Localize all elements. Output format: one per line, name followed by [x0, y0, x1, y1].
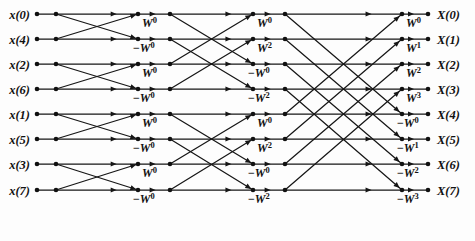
- twiddle-label-s3-r4: −W0: [397, 115, 419, 130]
- twiddle-label-s1-r7: −W0: [133, 191, 155, 206]
- twiddle-exp-s1-r3: 0: [151, 90, 155, 100]
- output-node-5: [426, 137, 431, 142]
- twiddle-exp-s2-r7: 2: [266, 191, 270, 201]
- twiddle-exp-s3-r0: 0: [417, 15, 421, 25]
- twiddle-exp-s1-r6: 0: [153, 165, 157, 175]
- stage1-out-node-6: [136, 162, 141, 167]
- twiddle-label-s2-r1: W2: [257, 40, 272, 55]
- output-node-2: [426, 62, 431, 67]
- twiddle-label-s2-r3: −W2: [248, 90, 270, 105]
- stage2-in-node-0: [168, 12, 173, 17]
- stage2-straight-arrow-7: [225, 187, 231, 192]
- stage1-cross-arrow-4: [130, 114, 137, 119]
- twiddle-label-s3-r1: W1: [406, 40, 421, 55]
- stage2-straight-arrow-5: [225, 136, 231, 141]
- stage2-in-node-7: [168, 188, 173, 193]
- stage1-in-node-5: [54, 137, 59, 142]
- stage2-straight-arrow-6: [225, 161, 231, 166]
- stage1-straight-arrow-6: [111, 161, 117, 166]
- stage3-out-node-1: [400, 37, 405, 42]
- input-node-0: [35, 12, 40, 17]
- input-node-6: [35, 162, 40, 167]
- output-labels: X(0)X(1)X(2)X(3)X(4)X(5)X(6)X(7): [436, 8, 460, 198]
- twiddle-label-s3-r7: −W3: [397, 191, 419, 206]
- twiddle-exp-s3-r2: 2: [417, 65, 421, 75]
- twiddle-label-s2-r2: −W0: [248, 65, 270, 80]
- stage3-out-node-0: [400, 12, 405, 17]
- stage1-straight-arrow-0: [111, 11, 117, 16]
- input-label-5: x(5): [8, 133, 30, 147]
- stage1-out-node-4: [136, 112, 141, 117]
- stage3-out-node-2: [400, 62, 405, 67]
- stage2-out-node-0: [251, 12, 256, 17]
- stage1-cross-arrow-7: [130, 185, 137, 190]
- output-label-2: X(2): [436, 58, 460, 72]
- twiddle-exp-s1-r1: 0: [151, 40, 155, 50]
- stage1-cross-arrow-1: [130, 34, 137, 39]
- input-label-3: x(6): [8, 83, 30, 97]
- stage1-in-node-7: [54, 188, 59, 193]
- input-node-5: [35, 137, 40, 142]
- input-label-1: x(4): [8, 33, 30, 47]
- fft-butterfly-diagram: x(0)x(4)x(2)x(6)x(1)x(5)x(3)x(7) X(0)X(1…: [0, 0, 475, 241]
- stage1-in-node-3: [54, 87, 59, 92]
- twiddle-label-s1-r2: W0: [142, 65, 157, 80]
- twiddle-exp-s2-r0: 0: [268, 15, 272, 25]
- input-labels: x(0)x(4)x(2)x(6)x(1)x(5)x(3)x(7): [8, 8, 30, 198]
- output-node-4: [426, 112, 431, 117]
- stage2-straight-arrow-3: [225, 86, 231, 91]
- twiddle-label-s1-r5: −W0: [133, 140, 155, 155]
- output-node-0: [426, 12, 431, 17]
- twiddle-exp-s1-r7: 0: [151, 191, 155, 201]
- stage2-in-node-1: [168, 37, 173, 42]
- stage2-straight-arrow-2: [225, 61, 231, 66]
- stage1-straight-arrow-4: [111, 111, 117, 116]
- stage3-out-node-3: [400, 87, 405, 92]
- stage1-cross-arrow-2: [130, 64, 137, 69]
- stage3-in-node-2: [283, 62, 288, 67]
- input-node-4: [35, 112, 40, 117]
- output-label-3: X(3): [436, 83, 460, 97]
- twiddle-label-s1-r6: W0: [142, 165, 157, 180]
- output-node-3: [426, 87, 431, 92]
- stage1-in-node-2: [54, 62, 59, 67]
- stage3-straight-arrow-7: [366, 187, 372, 192]
- twiddle-label-s1-r4: W0: [142, 115, 157, 130]
- stage3-straight-arrow-0: [366, 11, 372, 16]
- twiddle-label-s2-r4: W0: [257, 115, 272, 130]
- twiddle-label-s2-r5: W2: [257, 140, 272, 155]
- twiddle-label-s3-r0: W0: [406, 15, 421, 30]
- stage3-in-node-3: [283, 87, 288, 92]
- input-label-7: x(7): [8, 184, 30, 198]
- stage1-in-node-1: [54, 37, 59, 42]
- output-label-6: X(6): [436, 158, 460, 172]
- output-label-0: X(0): [436, 8, 460, 22]
- stage3-in-node-0: [283, 12, 288, 17]
- stage1-out-node-2: [136, 62, 141, 67]
- twiddle-label-s1-r1: −W0: [133, 40, 155, 55]
- twiddle-label-s3-r2: W2: [406, 65, 421, 80]
- twiddle-exp-s2-r2: 0: [266, 65, 270, 75]
- stage2-straight-arrow-0: [225, 11, 231, 16]
- stage3-in-node-5: [283, 137, 288, 142]
- twiddle-exp-s3-r7: 3: [415, 191, 419, 201]
- twiddle-label-s3-r6: −W2: [397, 165, 419, 180]
- stage2-in-node-4: [168, 112, 173, 117]
- twiddle-exp-s2-r4: 0: [268, 115, 272, 125]
- stage2-out-node-4: [251, 112, 256, 117]
- input-label-4: x(1): [8, 108, 30, 122]
- stage2-in-node-3: [168, 87, 173, 92]
- stage2-out-node-5: [251, 137, 256, 142]
- input-node-3: [35, 87, 40, 92]
- stage1-in-node-4: [54, 112, 59, 117]
- stage3-in-node-7: [283, 188, 288, 193]
- stage2-in-node-5: [168, 137, 173, 142]
- twiddle-exp-s1-r0: 0: [153, 15, 157, 25]
- twiddle-exp-s1-r2: 0: [153, 65, 157, 75]
- stage3-in-node-6: [283, 162, 288, 167]
- output-label-1: X(1): [436, 33, 460, 47]
- stage1-cross-arrow-3: [130, 84, 137, 89]
- stage1-in-node-6: [54, 162, 59, 167]
- stage1-cross-arrow-0: [130, 14, 137, 19]
- twiddle-exp-s3-r3: 3: [417, 90, 421, 100]
